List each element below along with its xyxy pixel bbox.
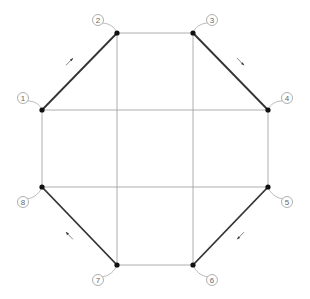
svg-text:6: 6 — [210, 276, 215, 285]
node-labels: 12345678 — [18, 15, 293, 286]
node-8 — [39, 184, 44, 189]
arrow-icon — [66, 232, 73, 239]
diagram-canvas: 12345678 — [0, 0, 310, 299]
edge-bold-3-4 — [193, 33, 268, 110]
svg-text:8: 8 — [21, 198, 26, 207]
svg-text:7: 7 — [96, 276, 101, 285]
octagon-diagram: 12345678 — [0, 0, 310, 299]
node-label-1: 1 — [18, 93, 29, 104]
node-label-2: 2 — [93, 15, 104, 26]
arrow-icon — [237, 232, 244, 239]
bold-edges — [42, 33, 268, 265]
node-label-3: 3 — [207, 15, 218, 26]
svg-text:2: 2 — [96, 16, 101, 25]
leader-8 — [27, 187, 42, 199]
edge-bold-1-2 — [42, 33, 117, 110]
thin-edges — [42, 33, 268, 265]
leader-2 — [103, 23, 117, 33]
edge-bold-5-6 — [193, 187, 268, 265]
node-5 — [265, 184, 270, 189]
node-label-6: 6 — [207, 275, 218, 286]
node-3 — [190, 30, 195, 35]
leader-3 — [193, 23, 207, 33]
node-label-8: 8 — [18, 197, 29, 208]
edge-bold-7-8 — [42, 187, 117, 265]
node-6 — [190, 262, 195, 267]
leader-5 — [268, 187, 283, 199]
nodes — [39, 30, 270, 267]
node-1 — [39, 107, 44, 112]
leader-7 — [102, 265, 117, 277]
direction-arrows — [66, 58, 244, 239]
node-7 — [114, 262, 119, 267]
svg-text:4: 4 — [285, 94, 290, 103]
svg-text:5: 5 — [285, 198, 290, 207]
svg-text:3: 3 — [210, 16, 215, 25]
arrow-icon — [237, 58, 244, 65]
node-label-5: 5 — [282, 197, 293, 208]
node-4 — [265, 107, 270, 112]
label-leaders — [27, 23, 282, 276]
svg-text:1: 1 — [21, 94, 26, 103]
node-2 — [114, 30, 119, 35]
grid-lines — [42, 33, 268, 265]
leader-6 — [193, 265, 208, 277]
node-label-4: 4 — [282, 93, 293, 104]
arrow-icon — [66, 58, 73, 65]
node-label-7: 7 — [93, 275, 104, 286]
